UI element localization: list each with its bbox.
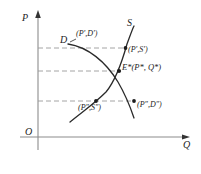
point-label-p2-s2: (P″,S″): [78, 104, 101, 112]
demand-label-leader: [70, 39, 76, 42]
point-label-equilibrium: E*(P*, Q*): [122, 63, 161, 72]
q-axis-label: Q: [183, 140, 190, 150]
diagram-canvas: [0, 0, 201, 174]
point-label-p2-d2: (P″,D″): [137, 101, 162, 109]
origin-label: O: [25, 127, 32, 137]
point-label-p1-d1: (P',D'): [76, 30, 97, 38]
point-dot-equilibrium: [117, 69, 121, 73]
point-label-p1-s1: (P',S'): [128, 46, 148, 54]
p-axis-label: P: [22, 13, 28, 23]
supply-demand-diagram: P Q O D S (P',D') (P',S') E*(P*, Q*) (P″…: [0, 0, 201, 174]
p-axis-arrow-icon: [35, 10, 41, 18]
point-dot-p1-s1: [124, 46, 128, 50]
supply-curve-label: S: [127, 18, 132, 28]
demand-curve-label: D: [60, 35, 67, 45]
point-dot-p2-d2: [132, 99, 136, 103]
